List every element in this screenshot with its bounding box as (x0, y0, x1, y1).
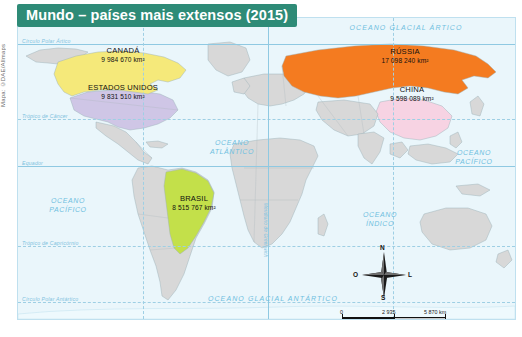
country-name-russia: RÚSSIA (353, 47, 457, 56)
ocean-label-atlantic: OCEANO ATLÂNTICO (196, 138, 268, 156)
scale-value-max: 5 870 km (424, 309, 446, 315)
ocean-label-arctic: OCEANO GLACIAL ÁRTICO (336, 23, 476, 32)
country-area-brasil: 8 515 767 km² (146, 203, 242, 212)
country-label-canada: CANADÁ 9 984 670 km² (80, 46, 166, 64)
graticule-greenwich-meridian (268, 18, 269, 319)
country-name-brasil: BRASIL (146, 194, 242, 203)
compass-east-label: L (408, 271, 412, 278)
scale-fill (343, 318, 394, 320)
label-arctic-circle: Círculo Polar Ártico (22, 38, 71, 44)
country-name-canada: CANADÁ (80, 46, 166, 55)
country-area-canada: 9 984 670 km² (80, 55, 166, 64)
map-credit: Mapa: ©DAE/Allmaps (0, 28, 14, 123)
label-greenwich-meridian: Meridiano de Greenwich (263, 203, 268, 257)
country-area-russia: 17 098 240 km² (353, 56, 457, 65)
country-name-china: CHINA (363, 85, 461, 94)
map-frame: Círculo Polar Ártico Trópico de Câncer E… (17, 17, 516, 320)
compass-north-label: N (380, 244, 385, 251)
country-label-russia: RÚSSIA 17 098 240 km² (353, 47, 457, 65)
compass-west-label: O (353, 271, 358, 278)
scale-tick-max (445, 314, 446, 320)
country-label-china: CHINA 9 598 089 km² (363, 85, 461, 103)
country-name-estados-unidos: ESTADOS UNIDOS (64, 83, 182, 92)
label-tropic-cancer: Trópico de Câncer (22, 113, 68, 119)
ocean-label-indian: OCEANO ÍNDICO (348, 210, 412, 228)
scale-bar: 0 2 935 5 870 km 1 cm – 2 935 km (338, 309, 456, 320)
scale-tick-zero (342, 314, 343, 320)
graticule-arctic-circle (18, 44, 515, 45)
map-figure: Mapa: ©DAE/Allmaps (0, 0, 522, 337)
map-title: Mundo – países mais extensos (2015) (17, 4, 297, 27)
country-area-estados-unidos: 9 831 510 km² (64, 92, 182, 101)
graticule-equator (18, 166, 515, 167)
country-label-estados-unidos: ESTADOS UNIDOS 9 831 510 km² (64, 83, 182, 101)
label-tropic-capricorn: Trópico de Capricórnio (22, 240, 79, 246)
ocean-label-pacific-west: OCEANO PACÍFICO (36, 196, 100, 214)
graticule-tropic-cancer (18, 119, 515, 120)
country-label-brasil: BRASIL 8 515 767 km² (146, 194, 242, 212)
compass-south-label: S (381, 294, 385, 301)
country-area-china: 9 598 089 km² (363, 94, 461, 103)
ocean-label-antarctic: OCEANO GLACIAL ANTÁRTICO (198, 294, 348, 303)
label-equator: Equador (22, 160, 43, 166)
ocean-label-pacific-east: OCEANO PACÍFICO (442, 148, 506, 166)
scale-tick-mid (394, 314, 395, 320)
label-antarctic-circle: Círculo Polar Antártico (22, 296, 78, 302)
compass-rose: N S O L (356, 252, 412, 304)
